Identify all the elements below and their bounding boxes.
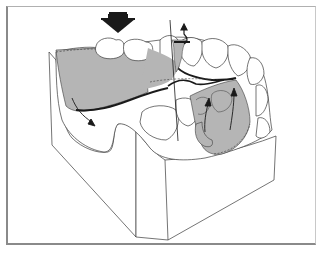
artificial-tooth-1 [95,38,124,59]
rpd-diagram [0,0,325,253]
occlusal-force-arrow-shaft [109,12,127,20]
occlusal-force-arrowhead [101,19,135,33]
